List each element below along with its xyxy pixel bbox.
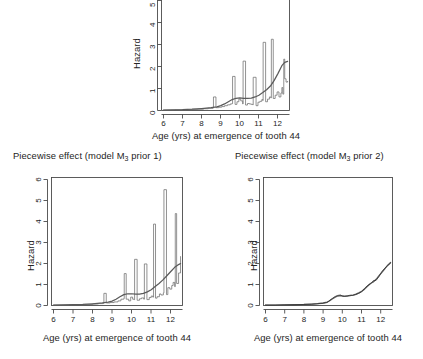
br-ytick-1: 1 (246, 282, 255, 287)
top-ytick-0: 0 (148, 110, 157, 115)
br-xtick-11: 11 (357, 315, 366, 324)
br-xtick-6: 6 (263, 315, 268, 324)
title-subscript: 3 (125, 155, 129, 162)
br-ytick-0: 0 (246, 303, 255, 308)
br-xtick-8: 8 (302, 315, 307, 324)
top-panel-xlabel: Age (yrs) at emergence of tooth 44 (140, 130, 312, 141)
bottom-right-series-2 (265, 263, 390, 305)
top-ytick-4: 4 (148, 22, 157, 27)
top-panel-plot: 0 1 2 3 4 5 6 7 8 9 10 (0, 0, 423, 125)
bl-ytick-1: 1 (34, 282, 43, 287)
bottom-right-panel-xlabel: Age (yrs) at emergence of tooth 44 (242, 332, 414, 343)
top-ytick-1: 1 (148, 88, 157, 93)
br-ytick-2: 2 (246, 261, 255, 266)
br-ytick-5: 5 (246, 198, 255, 203)
bottom-right-panel-title: Piecewise effect (model M3 prior 2) (235, 150, 384, 161)
bl-ytick-0: 0 (34, 303, 43, 308)
bl-xtick-9: 9 (110, 315, 115, 324)
top-panel-step-series (163, 39, 287, 110)
top-xtick-6: 6 (161, 119, 166, 128)
title-prefix: Piecewise effect (model M (13, 150, 125, 161)
bottom-right-panel-plot: 0 1 2 3 4 5 6 6 7 8 9 (211, 168, 423, 358)
top-panel-yaxis: 0 1 2 3 4 5 (148, 0, 161, 115)
top-xtick-7: 7 (180, 119, 185, 128)
top-xtick-8: 8 (199, 119, 204, 128)
bottom-left-smooth-series (53, 264, 180, 306)
bottom-left-panel-title: Piecewise effect (model M3 prior 1) (13, 150, 162, 161)
bottom-left-panel-xlabel: Age (yrs) at emergence of tooth 44 (31, 332, 203, 343)
top-hazard-panel: Hazard 0 1 2 3 4 5 (0, 0, 423, 145)
top-xtick-9: 9 (218, 119, 223, 128)
bottom-left-panel-plot: 0 1 2 3 4 5 6 6 7 8 9 (0, 168, 212, 358)
bl-ytick-6: 6 (34, 177, 43, 182)
br-ytick-4: 4 (246, 219, 255, 224)
top-xtick-12: 12 (273, 119, 282, 128)
top-panel-smooth-series (163, 61, 287, 110)
title-prefix: Piecewise effect (model M (235, 150, 347, 161)
br-xtick-9: 9 (321, 315, 326, 324)
br-ytick-6: 6 (246, 177, 255, 182)
top-panel-xaxis: 6 7 8 9 10 11 12 (161, 115, 289, 129)
top-ytick-2: 2 (148, 66, 157, 71)
bl-xtick-7: 7 (71, 315, 76, 324)
bottom-left-yaxis: 0 1 2 3 4 5 6 (34, 177, 47, 308)
bl-xtick-12: 12 (166, 315, 175, 324)
top-xtick-11: 11 (254, 119, 263, 128)
top-ytick-3: 3 (148, 44, 157, 49)
bl-xtick-11: 11 (147, 315, 156, 324)
title-suffix: prior 1) (129, 150, 162, 161)
bl-xtick-10: 10 (127, 315, 136, 324)
bl-ytick-3: 3 (34, 240, 43, 245)
bottom-right-xaxis: 6 7 8 9 10 11 12 (263, 310, 392, 325)
bl-ytick-5: 5 (34, 198, 43, 203)
bl-ytick-4: 4 (34, 219, 43, 224)
bottom-right-hazard-panel: Piecewise effect (model M3 prior 2) Haza… (211, 148, 423, 359)
bl-ytick-2: 2 (34, 261, 43, 266)
br-ytick-3: 3 (246, 240, 255, 245)
bottom-right-series-1 (265, 262, 390, 305)
bl-xtick-6: 6 (51, 315, 56, 324)
bottom-left-step-series (53, 190, 180, 305)
title-subscript: 3 (347, 155, 351, 162)
title-suffix: prior 2) (351, 150, 384, 161)
br-xtick-12: 12 (376, 315, 385, 324)
top-ytick-5: 5 (148, 2, 157, 7)
bottom-left-xaxis: 6 7 8 9 10 11 12 (51, 310, 182, 325)
br-xtick-10: 10 (338, 315, 347, 324)
top-xtick-10: 10 (235, 119, 244, 128)
br-xtick-7: 7 (282, 315, 287, 324)
bl-xtick-8: 8 (90, 315, 95, 324)
bottom-right-yaxis: 0 1 2 3 4 5 6 (246, 177, 259, 308)
bottom-left-hazard-panel: Piecewise effect (model M3 prior 1) Haza… (0, 148, 212, 359)
